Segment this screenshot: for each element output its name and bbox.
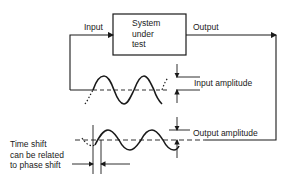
time-shift-line-3: to phase shift [10, 160, 64, 171]
system-box-line-1: System [132, 18, 160, 29]
input-amplitude-label: Input amplitude [194, 78, 252, 88]
time-shift-line-2: can be related [10, 150, 64, 161]
input-waveform-dotted-tail [162, 78, 168, 90]
input-line [70, 35, 113, 90]
time-shift-label: Time shift can be related to phase shift [10, 139, 64, 171]
output-amplitude-label: Output amplitude [193, 128, 258, 138]
system-box-line-3: test [132, 39, 160, 50]
system-box-line-2: under [132, 29, 160, 40]
time-shift-line-1: Time shift [10, 139, 64, 150]
input-label: Input [84, 22, 103, 32]
input-waveform-dotted-lead [85, 90, 93, 104]
output-label: Output [193, 22, 219, 32]
system-box-label: System under test [132, 18, 160, 50]
